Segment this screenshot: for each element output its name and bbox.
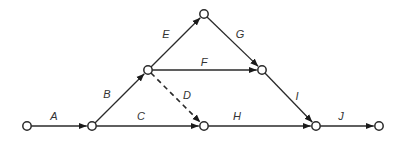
node-2-circle	[88, 122, 96, 130]
node-6-circle	[200, 122, 208, 130]
edge-d-arrow	[151, 73, 200, 122]
edge-label-b: B	[103, 88, 110, 100]
node-5-circle	[258, 66, 266, 74]
edge-label-a: A	[49, 110, 57, 122]
edge-label-g: G	[236, 28, 245, 40]
node-3-circle	[144, 66, 152, 74]
edge-label-i: I	[295, 90, 298, 102]
labels-group: ABCDEFGHIJ	[49, 28, 344, 122]
edge-label-h: H	[233, 110, 241, 122]
edge-label-j: J	[337, 110, 344, 122]
edge-i-arrow	[265, 73, 312, 122]
edge-label-e: E	[162, 28, 170, 40]
node-1-circle	[23, 122, 31, 130]
node-4-circle	[200, 10, 208, 18]
node-8-circle	[375, 122, 383, 130]
node-7-circle	[312, 122, 320, 130]
edge-label-f: F	[201, 56, 209, 68]
edges-group	[31, 17, 374, 126]
edge-label-d: D	[183, 89, 191, 101]
edge-label-c: C	[137, 110, 145, 122]
network-diagram: ABCDEFGHIJ	[0, 0, 402, 142]
edge-e-arrow	[151, 18, 200, 67]
edge-g-arrow	[207, 17, 258, 66]
